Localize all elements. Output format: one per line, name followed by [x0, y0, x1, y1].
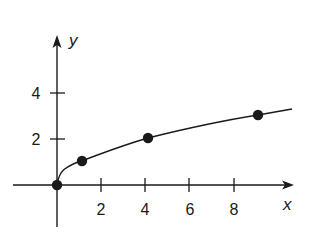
- data-point-4-2: [143, 133, 153, 143]
- sqrt-function-graph: 2 4 6 8 2 4 y x: [0, 0, 322, 241]
- y-tick-label-2: 2: [32, 131, 41, 148]
- x-tick-label-2: 2: [97, 201, 106, 218]
- x-tick-label-4: 4: [141, 201, 150, 218]
- sqrt-curve-smooth: [57, 109, 292, 185]
- x-tick-label-8: 8: [230, 201, 239, 218]
- x-tick-label-6: 6: [186, 201, 195, 218]
- data-point-1-1: [77, 156, 87, 166]
- data-point-0-0: [52, 180, 62, 190]
- y-tick-label-4: 4: [32, 85, 41, 102]
- y-axis-label: y: [68, 31, 79, 50]
- data-point-9-3: [253, 110, 263, 120]
- x-axis-label: x: [282, 195, 292, 214]
